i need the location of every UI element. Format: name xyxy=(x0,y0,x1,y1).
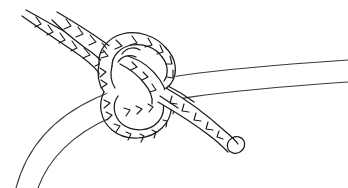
knot-drawing-canvas xyxy=(0,0,348,188)
knot-illustration-figure: Rope hitch knot line drawing xyxy=(0,0,348,188)
